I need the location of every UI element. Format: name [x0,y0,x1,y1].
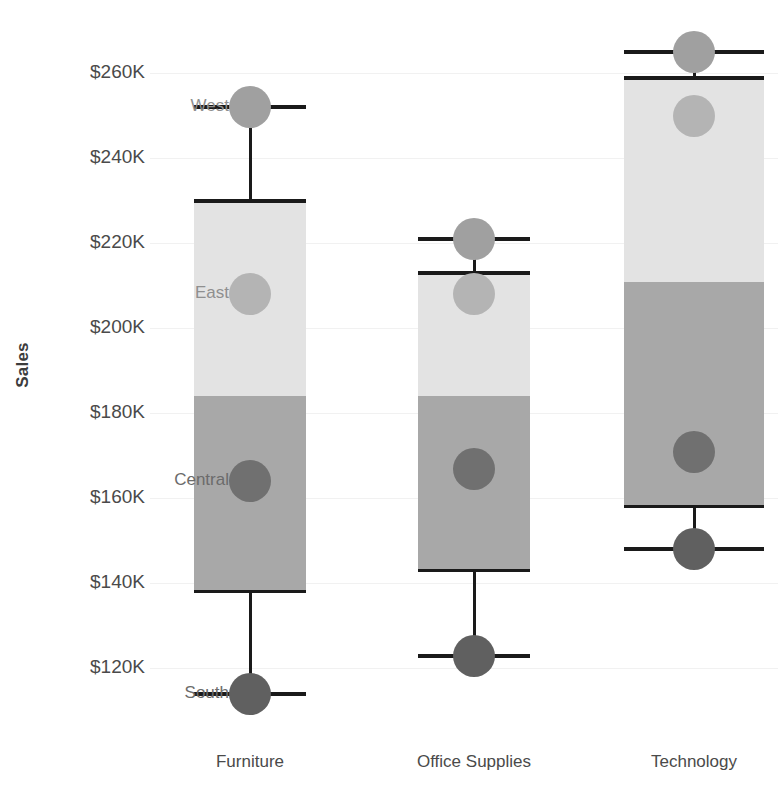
y-axis-tick-label: $260K [35,61,145,83]
box-lower-quartile [624,282,764,507]
box-bottom-edge [624,505,764,508]
y-axis-tick-label: $120K [35,656,145,678]
y-axis-tick-label: $180K [35,401,145,423]
box-bottom-edge [418,569,530,572]
data-point-south[interactable] [453,635,495,677]
gridline [150,73,778,74]
point-label-central: Central [103,470,233,490]
data-point-south[interactable] [673,528,715,570]
y-axis-tick-label: $240K [35,146,145,168]
data-point-central[interactable] [673,431,715,473]
x-axis-tick-label: Furniture [140,752,360,772]
point-label-west: West [103,96,233,116]
boxplot-chart: Sales $260K$240K$220K$200K$180K$160K$140… [0,0,778,800]
data-point-west[interactable] [673,31,715,73]
data-point-central[interactable] [229,460,271,502]
data-point-west[interactable] [453,218,495,260]
data-point-west[interactable] [229,86,271,128]
y-axis-tick-label: $200K [35,316,145,338]
box-top-edge [624,76,764,80]
data-point-east[interactable] [453,273,495,315]
x-axis-tick-label: Technology [584,752,778,772]
box-bottom-edge [194,590,306,593]
y-axis-tick-label: $140K [35,571,145,593]
data-point-south[interactable] [229,673,271,715]
data-point-east[interactable] [229,273,271,315]
box-top-edge [194,199,306,203]
y-axis-tick-label: $220K [35,231,145,253]
point-label-south: South [103,683,233,703]
data-point-east[interactable] [673,95,715,137]
data-point-central[interactable] [453,448,495,490]
point-label-east: East [103,283,233,303]
y-axis-tick-labels: $260K$240K$220K$200K$180K$160K$140K$120K [20,0,145,800]
x-axis-tick-label: Office Supplies [364,752,584,772]
